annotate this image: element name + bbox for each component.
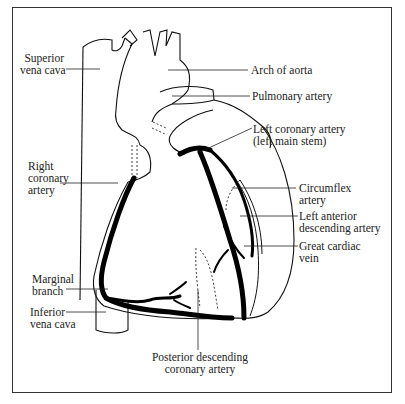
label-line: Left coronary artery [253, 123, 346, 135]
left-main-stem [180, 148, 210, 154]
label-line: Marginal [32, 273, 74, 285]
label-circumflex-artery: Circumflex artery [299, 182, 351, 206]
label-line: descending artery [299, 222, 380, 234]
arch-of-aorta-shape [143, 30, 190, 90]
label-line: branch [32, 285, 74, 297]
label-line: Posterior descending [140, 351, 260, 363]
label-superior-vena-cava: Superior vena cava [20, 52, 64, 76]
label-line: (left main stem) [253, 135, 346, 147]
label-line: vena cava [20, 64, 64, 76]
label-line: vena cava [30, 318, 76, 330]
label-left-anterior-descending: Left anterior descending artery [299, 210, 380, 234]
superior-vena-cava-shape [83, 38, 125, 51]
label-arch-of-aorta: Arch of aorta [251, 64, 312, 76]
label-pulmonary-artery: Pulmonary artery [252, 90, 332, 102]
label-left-coronary-artery: Left coronary artery (left main stem) [253, 123, 346, 147]
label-line: Superior [20, 52, 64, 64]
label-line: coronary artery [140, 363, 260, 375]
label-right-coronary-artery: Right coronary artery [28, 160, 69, 196]
label-great-cardiac-vein: Great cardiac vein [299, 240, 361, 264]
pulmonary-artery-shape [160, 86, 214, 104]
label-line: Left anterior [299, 210, 380, 222]
label-line: Inferior [30, 306, 76, 318]
great-cardiac-vein [236, 180, 259, 316]
label-line: artery [28, 184, 69, 196]
label-posterior-descending: Posterior descending coronary artery [140, 351, 260, 375]
label-line: Great cardiac [299, 240, 361, 252]
label-line: Circumflex [299, 182, 351, 194]
label-line: coronary [28, 172, 69, 184]
label-line: Right [28, 160, 69, 172]
label-marginal-branch: Marginal branch [32, 273, 74, 297]
label-line: artery [299, 194, 351, 206]
label-inferior-vena-cava: Inferior vena cava [30, 306, 76, 330]
left-anterior-descending-artery [200, 152, 244, 318]
label-line: vein [299, 252, 361, 264]
marginal-branch [106, 296, 180, 302]
